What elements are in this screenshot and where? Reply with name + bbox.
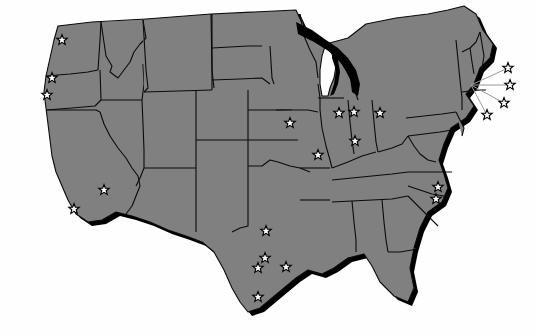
states-layer (44, 6, 493, 312)
us-map-svg (0, 0, 536, 336)
marker-new-england-2[interactable] (505, 80, 515, 90)
us-map-container (0, 0, 536, 336)
marker-new-england-1[interactable] (503, 63, 513, 73)
marker-new-england-4[interactable] (482, 110, 492, 120)
marker-new-england-3[interactable] (499, 98, 509, 108)
